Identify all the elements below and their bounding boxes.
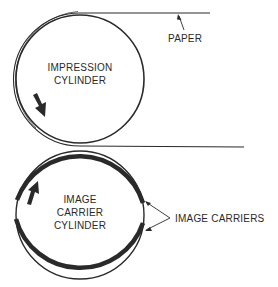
impression-cylinder-label-line1: IMPRESSION [48,62,113,73]
rotation-arrow-down-icon [33,93,46,117]
image-carriers-label: IMAGE CARRIERS [175,213,265,224]
carrier-cylinder-label-line3: CYLINDER [54,220,106,231]
paper-label: PAPER [168,33,202,44]
carrier-cylinder-label-line1: IMAGE [63,194,96,205]
printing-press-diagram: PAPER IMPRESSION CYLINDER IMAGE CARRIER … [0,0,278,287]
rotation-arrow-up-icon [27,181,39,205]
carrier-cylinder-label-line2: CARRIER [57,207,103,218]
paper-web [14,12,245,148]
impression-cylinder-label-line2: CYLINDER [54,75,106,86]
image-carriers-leaders [145,201,170,231]
leader-arrowhead-icon [177,14,182,20]
paper-leader [177,14,184,30]
